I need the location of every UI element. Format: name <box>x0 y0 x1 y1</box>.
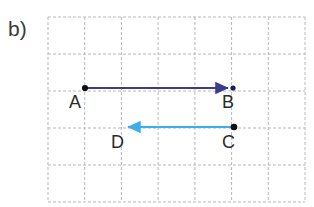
figure-canvas: b) <box>0 0 314 207</box>
grid-horizontal-lines <box>48 17 305 202</box>
vector-diagram-svg <box>0 0 314 207</box>
point-label-b: B <box>222 93 234 111</box>
point-b-dot <box>230 85 235 90</box>
point-label-d: D <box>111 133 124 151</box>
point-a-dot <box>82 85 88 91</box>
point-c-dot <box>231 124 238 131</box>
grid-vertical-lines <box>48 17 305 202</box>
point-label-c: C <box>222 133 235 151</box>
point-label-a: A <box>69 93 81 111</box>
